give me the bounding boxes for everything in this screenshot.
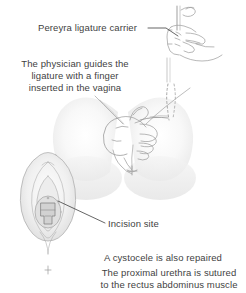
label-incision-site: Incision site <box>108 218 159 230</box>
leader-line-incision <box>58 201 105 223</box>
caption-proximal-urethra-sutured: The proximal urethra is sutured to the r… <box>96 267 242 291</box>
caption-line: The proximal urethra is sutured <box>96 267 242 279</box>
caption-line: The physician guides the <box>8 58 142 70</box>
hand-with-carrier-illustration <box>167 6 222 61</box>
leader-line-carrier <box>148 28 178 36</box>
caption-line: inserted in the vagina <box>8 82 142 94</box>
caption-line: ligature with a finger <box>8 70 142 82</box>
label-pereyra-ligature-carrier: Pereyra ligature carrier <box>38 22 137 34</box>
caption-line: to the rectus abdominus muscle <box>96 279 242 291</box>
caption-physician-guides-ligature: The physician guides the ligature with a… <box>8 58 142 93</box>
medical-illustration-artwork <box>0 0 246 293</box>
illustration-canvas: Pereyra ligature carrier The physician g… <box>0 0 246 293</box>
caption-cystocele-repaired: A cystocele is also repaired <box>104 252 222 264</box>
caption-line: A cystocele is also repaired <box>104 252 222 264</box>
vulvar-inset-illustration <box>20 153 75 275</box>
